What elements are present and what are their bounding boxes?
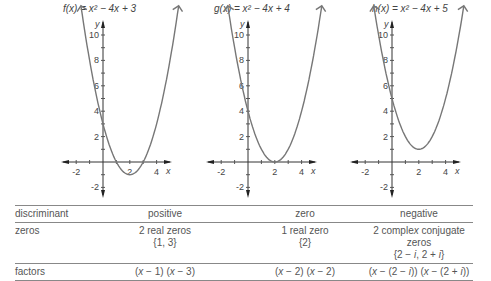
graph-f: -224108642-2xy (61, 5, 184, 198)
graph-h: -224108642-2xy (350, 5, 469, 198)
svg-text:2: 2 (383, 132, 388, 142)
svg-text:4: 4 (94, 106, 99, 116)
svg-text:-2: -2 (380, 182, 388, 192)
parabola-graphs: -224108642-2xy-224108642-2xy-224108642-2… (0, 0, 491, 205)
svg-text:-2: -2 (361, 167, 369, 177)
table-cell: negative (365, 206, 473, 222)
svg-text:x: x (454, 166, 460, 176)
svg-text:4: 4 (383, 106, 388, 116)
table-cell: 2 complex conjugate zeros{2 − i, 2 + i} (365, 223, 473, 263)
table-row: zeros2 real zeros{1, 3}1 real zero{2}2 c… (15, 223, 473, 264)
svg-text:2: 2 (94, 132, 99, 142)
svg-text:10: 10 (234, 30, 244, 40)
svg-text:4: 4 (154, 167, 159, 177)
svg-text:10: 10 (89, 30, 99, 40)
svg-text:4: 4 (299, 167, 304, 177)
table-row: factors(x − 1) (x − 3)(x − 2) (x − 2)(x … (15, 264, 473, 281)
table-cell: zero (245, 206, 365, 222)
svg-text:-2: -2 (72, 167, 80, 177)
svg-text:6: 6 (383, 81, 388, 91)
svg-text:y: y (239, 19, 245, 29)
table-cell: (x − (2 − i)) (x − (2 + i)) (365, 264, 473, 280)
table-row: discriminantpositivezeronegative (15, 206, 473, 223)
table-cell: (x − 1) (x − 3) (111, 264, 219, 280)
table-cell: 1 real zero{2} (245, 223, 365, 263)
row-label: zeros (15, 223, 111, 263)
svg-text:2: 2 (272, 167, 277, 177)
svg-text:8: 8 (239, 55, 244, 65)
svg-text:2: 2 (127, 167, 132, 177)
svg-text:-2: -2 (217, 167, 225, 177)
table-cell: 2 real zeros{1, 3} (111, 223, 219, 263)
svg-text:2: 2 (416, 167, 421, 177)
row-label: discriminant (15, 206, 111, 222)
svg-text:y: y (94, 19, 100, 29)
svg-text:x: x (310, 166, 316, 176)
graph-g: -224108642-2xy (206, 5, 327, 198)
svg-text:-2: -2 (91, 182, 99, 192)
table-cell: (x − 2) (x − 2) (245, 264, 365, 280)
svg-text:8: 8 (94, 55, 99, 65)
svg-text:2: 2 (239, 132, 244, 142)
svg-text:4: 4 (443, 167, 448, 177)
svg-text:y: y (383, 19, 389, 29)
svg-text:x: x (165, 166, 171, 176)
table-cell: positive (111, 206, 219, 222)
svg-text:-2: -2 (236, 182, 244, 192)
row-label: factors (15, 264, 111, 280)
svg-text:4: 4 (239, 106, 244, 116)
discriminant-table: discriminantpositivezeronegativezeros2 r… (15, 205, 473, 281)
